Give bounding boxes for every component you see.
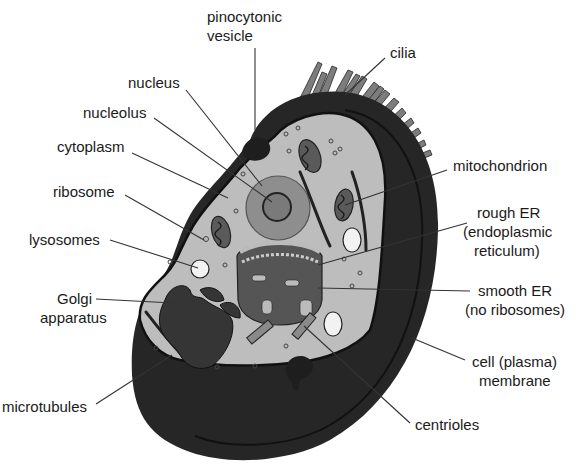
label-pinocytonic-vesicle-2: vesicle bbox=[207, 27, 253, 44]
label-smooth-er-1: smooth ER bbox=[478, 282, 552, 299]
label-pinocytonic-vesicle-1: pinocytonic bbox=[207, 8, 283, 25]
label-golgi-1: Golgi bbox=[57, 290, 92, 307]
label-nucleolus: nucleolus bbox=[83, 104, 146, 121]
label-cytoplasm: cytoplasm bbox=[57, 138, 125, 155]
label-golgi-2: apparatus bbox=[40, 309, 107, 326]
label-cell-membrane-1: cell (plasma) bbox=[472, 353, 557, 370]
label-ribosome: ribosome bbox=[53, 183, 115, 200]
label-rough-er-1: rough ER bbox=[477, 204, 541, 221]
label-centrioles: centrioles bbox=[415, 416, 479, 433]
label-smooth-er-2: (no ribosomes) bbox=[465, 301, 565, 318]
label-cilia: cilia bbox=[390, 44, 416, 61]
animal-cell-diagram: pinocytonic vesicle cilia nucleus nucleo… bbox=[0, 0, 579, 476]
label-microtubules: microtubules bbox=[2, 398, 87, 415]
label-mitochondrion: mitochondrion bbox=[453, 157, 547, 174]
nucleolus-shape bbox=[263, 193, 291, 221]
label-rough-er-3: reticulum) bbox=[474, 242, 540, 259]
label-lysosomes: lysosomes bbox=[29, 231, 100, 248]
label-nucleus: nucleus bbox=[128, 74, 180, 91]
label-cell-membrane-2: membrane bbox=[479, 372, 551, 389]
er-complex bbox=[237, 243, 322, 325]
label-rough-er-2: (endoplasmic bbox=[463, 223, 553, 240]
